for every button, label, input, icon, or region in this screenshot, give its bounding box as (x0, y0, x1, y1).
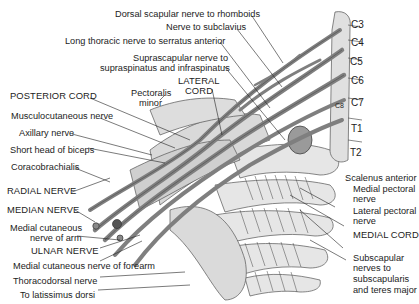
spine-level-c7: C7 (351, 97, 364, 108)
spine-level-c8: C8 (335, 102, 344, 109)
spine-level-c5: C5 (350, 56, 363, 67)
label-medial-pectoral-line2: nerve (353, 194, 376, 204)
spine-level-t1: T1 (351, 123, 363, 134)
label-medial-cutaneous-arm-line2: nerve of arm (30, 233, 82, 243)
label-medial-cutaneous-arm-line1: Medial cutaneous (10, 223, 82, 233)
label-subscapular-line3: subscapularis (353, 274, 409, 284)
label-subscapular-line1: Subscapular (353, 253, 404, 263)
spine-level-c6: C6 (351, 75, 364, 86)
label-ulnar-nerve: ULNAR NERVE (31, 246, 99, 256)
label-lateral-cord-line2: CORD (185, 86, 213, 96)
label-lateral-pectoral-line1: Lateral pectoral (353, 206, 416, 216)
label-coracobrachialis: Coracobrachialis (11, 162, 79, 172)
label-nerve-to-subclavius: Nerve to subclavius (166, 22, 246, 32)
label-median-nerve: MEDIAN NERVE (7, 205, 79, 215)
spine-level-c3: C3 (351, 19, 364, 30)
spine-level-t2: T2 (350, 147, 362, 158)
label-long-thoracic-nerve: Long thoracic nerve to serratus anterior (65, 36, 225, 46)
label-suprascapular-line2: supraspinatus and infraspinatus (100, 63, 230, 73)
label-subscapular-line4: and teres major (353, 285, 417, 295)
label-short-head-biceps: Short head of biceps (10, 145, 94, 155)
label-posterior-cord: POSTERIOR CORD (10, 91, 97, 101)
label-subscapular-line2: nerves to (353, 263, 391, 273)
label-lateral-pectoral-line2: nerve (353, 216, 376, 226)
label-pectoralis-minor-line1: Pectoralis (131, 88, 171, 98)
label-medial-pectoral-line1: Medial pectoral (353, 184, 415, 194)
label-thoracodorsal-nerve: Thoracodorsal nerve (13, 276, 97, 286)
label-medial-cord: MEDIAL CORD (353, 230, 419, 240)
label-radial-nerve: RADIAL NERVE (7, 186, 76, 196)
label-medial-cutaneous-forearm: Medial cutaneous nerve of forearm (13, 261, 155, 271)
spine-level-c4: C4 (351, 37, 364, 48)
label-dorsal-scapular-nerve: Dorsal scapular nerve to rhomboids (115, 9, 260, 19)
label-axillary-nerve: Axillary nerve (19, 128, 74, 138)
label-musculocutaneous-nerve: Musculocutaneous nerve (11, 111, 113, 121)
label-scalenus-anterior: Scalenus anterior (345, 173, 417, 183)
label-to-latissimus-dorsi: To latissimus dorsi (20, 290, 95, 300)
label-pectoralis-minor-line2: minor (139, 98, 162, 108)
label-suprascapular-line1: Suprascapular nerve to (133, 53, 228, 63)
